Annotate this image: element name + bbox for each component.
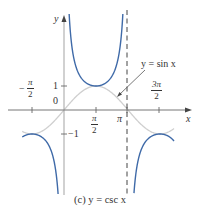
neg-sign: − [19,84,25,94]
x-tick-label-pi: π [117,114,122,124]
x-tick-label-neg-pi-half: π 2 [27,78,34,99]
y-axis-label: y [54,14,58,24]
x-axis-arrow-icon [185,108,192,113]
x-tick-label-pi-half: π 2 [91,114,98,135]
sin-annotation-arrow [119,70,145,95]
x-axis-label: x [186,114,190,124]
y-tick-label-neg1: −1 [68,129,79,139]
y-tick-label-1: 1 [53,81,58,91]
sin-annotation: y = sin x [141,59,176,69]
csc-chart [0,0,200,215]
csc-branch-left [22,134,58,194]
y-axis-arrow-icon [62,15,67,22]
chart-caption: (c) y = csc x [0,194,200,205]
y-tick-label-0: 0 [53,96,58,106]
csc-branch-middle [69,14,123,86]
csc-branch-right [134,134,174,193]
x-tick-label-three-pi-half: 3π 2 [151,80,162,101]
